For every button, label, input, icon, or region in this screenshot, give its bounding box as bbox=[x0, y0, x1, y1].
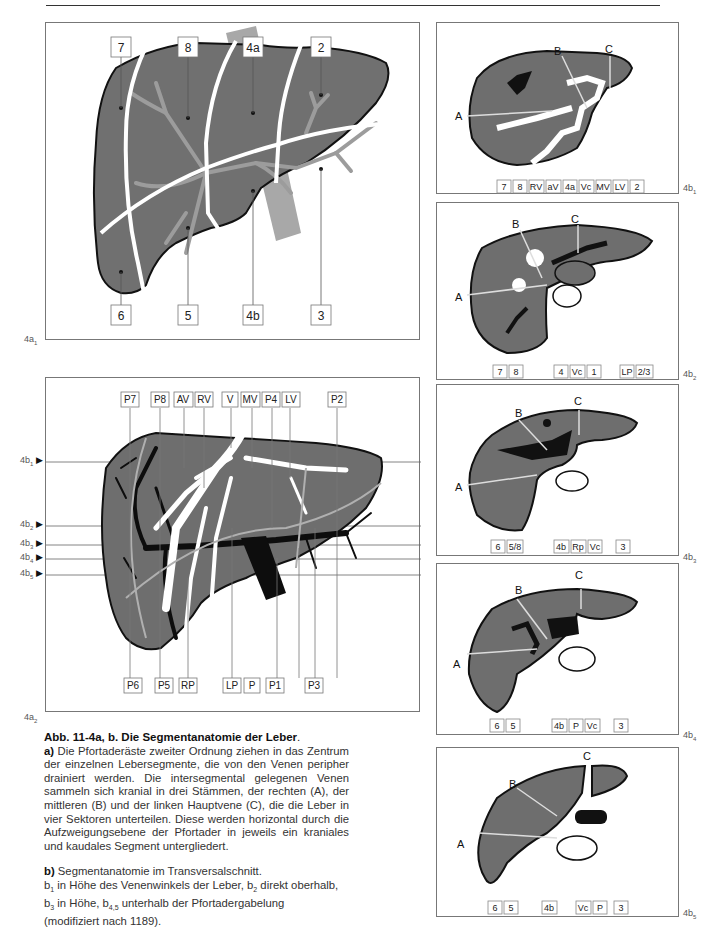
svg-text:P2: P2 bbox=[331, 394, 344, 405]
svg-text:P7: P7 bbox=[124, 394, 137, 405]
svg-text:Vc: Vc bbox=[578, 903, 589, 913]
svg-text:4b: 4b bbox=[544, 903, 554, 913]
panel-label-4b4: 4b4 bbox=[683, 730, 696, 742]
level-marker-4b5: 4b5 ▶ bbox=[20, 568, 43, 580]
panel-label-4b5: 4b5 bbox=[683, 908, 696, 920]
panel-label-4b2: 4b2 bbox=[683, 369, 696, 381]
svg-text:5: 5 bbox=[510, 721, 515, 731]
svg-text:V: V bbox=[227, 394, 234, 405]
svg-text:4a: 4a bbox=[565, 182, 575, 192]
svg-text:3: 3 bbox=[618, 903, 623, 913]
liver-vessel-diagram: P7 P8 AV RV V MV P4 LV P2 P6 P5 RP LP P … bbox=[46, 378, 421, 713]
svg-text:5: 5 bbox=[508, 903, 513, 913]
figure-panel-4b2: BCA 784Vc1LP2/3 bbox=[436, 202, 679, 380]
panel-label-4a1: 4a1 bbox=[24, 334, 37, 346]
svg-text:4b: 4b bbox=[246, 309, 260, 323]
svg-text:Rp: Rp bbox=[572, 542, 584, 552]
svg-text:6: 6 bbox=[495, 542, 500, 552]
figure-panel-4b4: BCA 654bPVc3 bbox=[436, 563, 679, 735]
svg-text:4b: 4b bbox=[556, 542, 566, 552]
svg-text:2: 2 bbox=[634, 182, 639, 192]
svg-text:P6: P6 bbox=[127, 680, 140, 691]
svg-text:A: A bbox=[455, 481, 463, 493]
panel-label-4b1: 4b1 bbox=[683, 183, 696, 195]
figure-caption: Abb. 11-4a, b. Die Segmentanatomie der L… bbox=[44, 731, 349, 927]
svg-text:B: B bbox=[554, 45, 561, 57]
svg-text:P4: P4 bbox=[265, 394, 278, 405]
svg-text:B: B bbox=[515, 407, 522, 419]
triangle-marker-icon: ▶ bbox=[36, 455, 43, 465]
panel-label-4b3: 4b3 bbox=[683, 552, 696, 564]
caption-part-b: b) Segmentanatomie im Transversalschnitt… bbox=[44, 865, 349, 879]
svg-text:A: A bbox=[455, 291, 463, 303]
svg-text:A: A bbox=[457, 838, 465, 850]
svg-text:C: C bbox=[605, 43, 613, 55]
svg-text:7: 7 bbox=[118, 41, 125, 55]
svg-text:B: B bbox=[515, 584, 522, 596]
svg-text:C: C bbox=[575, 569, 583, 581]
caption-part-b-levels: b1 in Höhe des Venenwinkels der Leber, b… bbox=[44, 879, 349, 927]
svg-text:1: 1 bbox=[591, 367, 596, 377]
svg-text:MV: MV bbox=[243, 394, 258, 405]
page-header-rule bbox=[46, 5, 660, 6]
level-marker-4b4: 4b4 ▶ bbox=[20, 552, 43, 564]
svg-text:8: 8 bbox=[513, 367, 518, 377]
svg-text:4: 4 bbox=[558, 367, 563, 377]
svg-text:P: P bbox=[249, 680, 256, 691]
svg-text:4a: 4a bbox=[246, 41, 260, 55]
level-marker-4b1: 4b1 ▶ bbox=[20, 455, 43, 467]
svg-text:MV: MV bbox=[596, 182, 610, 192]
svg-text:Vc: Vc bbox=[572, 367, 583, 377]
svg-text:LP: LP bbox=[226, 680, 239, 691]
svg-text:4b: 4b bbox=[554, 721, 564, 731]
triangle-marker-icon: ▶ bbox=[36, 552, 43, 562]
svg-text:C: C bbox=[571, 213, 579, 225]
figure-panel-4b5: BCA 654bVcP3 bbox=[436, 747, 679, 917]
figure-panel-4a2: P7 P8 AV RV V MV P4 LV P2 P6 P5 RP LP P … bbox=[45, 377, 420, 712]
svg-text:Vc: Vc bbox=[587, 721, 598, 731]
svg-text:A: A bbox=[453, 658, 461, 670]
svg-text:7: 7 bbox=[501, 182, 506, 192]
svg-text:aV: aV bbox=[547, 182, 558, 192]
svg-text:LV: LV bbox=[615, 182, 625, 192]
svg-text:5/8: 5/8 bbox=[509, 542, 522, 552]
svg-text:C: C bbox=[574, 395, 582, 407]
svg-text:5: 5 bbox=[185, 309, 192, 323]
svg-text:RV: RV bbox=[530, 182, 542, 192]
svg-text:8: 8 bbox=[517, 182, 522, 192]
svg-text:RV: RV bbox=[197, 394, 211, 405]
svg-text:2/3: 2/3 bbox=[638, 367, 651, 377]
svg-text:RP: RP bbox=[181, 680, 195, 691]
svg-text:AV: AV bbox=[177, 394, 190, 405]
svg-text:P: P bbox=[597, 903, 603, 913]
svg-text:P3: P3 bbox=[308, 680, 321, 691]
svg-text:P5: P5 bbox=[158, 680, 171, 691]
svg-text:Vc: Vc bbox=[581, 182, 592, 192]
svg-text:3: 3 bbox=[318, 309, 325, 323]
triangle-marker-icon: ▶ bbox=[36, 538, 43, 548]
figure-title: Abb. 11-4a, b. Die Segmentanatomie der L… bbox=[44, 731, 349, 745]
svg-text:LP: LP bbox=[621, 367, 632, 377]
svg-text:LV: LV bbox=[285, 394, 297, 405]
figure-panel-4b1: BCA 78RVaV4aVcMVLV2 bbox=[436, 22, 679, 194]
svg-text:B: B bbox=[512, 218, 519, 230]
svg-text:6: 6 bbox=[492, 903, 497, 913]
liver-segment-diagram: 7 8 4a 2 6 5 4b 3 bbox=[46, 23, 421, 341]
svg-text:2: 2 bbox=[318, 41, 325, 55]
panel-label-4a2: 4a2 bbox=[24, 712, 37, 724]
svg-text:C: C bbox=[583, 750, 591, 762]
triangle-marker-icon: ▶ bbox=[36, 519, 43, 529]
svg-text:A: A bbox=[455, 110, 463, 122]
triangle-marker-icon: ▶ bbox=[36, 568, 43, 578]
caption-part-a: a) Die Pfortaderäste zweiter Ordnung zie… bbox=[44, 745, 349, 854]
svg-text:8: 8 bbox=[185, 41, 192, 55]
svg-text:3: 3 bbox=[618, 721, 623, 731]
svg-text:6: 6 bbox=[118, 309, 125, 323]
svg-text:7: 7 bbox=[497, 367, 502, 377]
level-marker-4b2: 4b2 ▶ bbox=[20, 519, 43, 531]
svg-text:6: 6 bbox=[494, 721, 499, 731]
svg-text:Vc: Vc bbox=[590, 542, 601, 552]
figure-panel-4b3: BCA 65/84bRpVc3 bbox=[436, 384, 679, 556]
figure-panel-4a1: 7 8 4a 2 6 5 4b 3 bbox=[45, 22, 420, 340]
svg-text:P: P bbox=[573, 721, 579, 731]
